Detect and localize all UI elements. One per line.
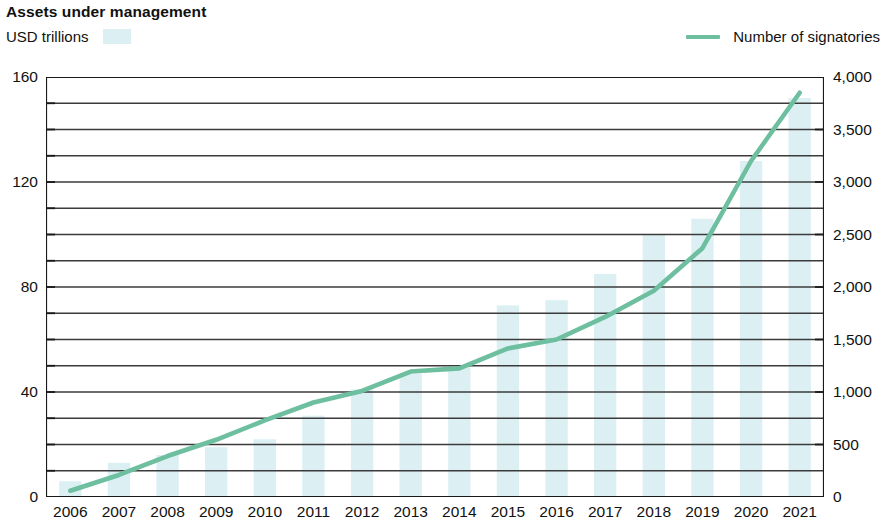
x-axis-tick-label-2021: 2021 xyxy=(775,504,824,520)
bars-group xyxy=(59,98,811,497)
y-axis-right-tick-label: 2,500 xyxy=(833,227,872,243)
legend-label-line: Number of signatories xyxy=(733,28,880,45)
x-axis-tick-label-2011: 2011 xyxy=(289,504,338,520)
bar-2012 xyxy=(351,389,373,497)
bar-2009 xyxy=(205,447,227,497)
x-axis-tick-label-2015: 2015 xyxy=(484,504,533,520)
chart-title: Assets under management xyxy=(6,3,206,21)
bar-2010 xyxy=(254,439,276,497)
x-axis-tick-label-2007: 2007 xyxy=(95,504,144,520)
y-axis-left-tick-label: 120 xyxy=(0,174,38,190)
y-axis-left-tick-label: 160 xyxy=(0,69,38,85)
chart-figure: Assets under management USD trillions Nu… xyxy=(0,0,884,529)
bar-2007 xyxy=(108,463,130,497)
y-axis-right-tick-label: 0 xyxy=(833,489,842,505)
x-axis-tick-label-2014: 2014 xyxy=(435,504,484,520)
bar-2015 xyxy=(497,305,519,497)
legend-item-line: Number of signatories xyxy=(686,28,880,45)
y-axis-left-tick-label: 0 xyxy=(0,489,38,505)
y-axis-right-tick-label: 1,500 xyxy=(833,332,872,348)
bar-2011 xyxy=(302,416,324,497)
x-axis-tick-label-2010: 2010 xyxy=(241,504,290,520)
y-axis-left-tick-label: 80 xyxy=(0,279,38,295)
x-axis-tick-label-2017: 2017 xyxy=(581,504,630,520)
chart-legend: USD trillions Number of signatories xyxy=(0,28,884,54)
x-axis-tick-label-2019: 2019 xyxy=(678,504,727,520)
y-axis-right-tick-label: 2,000 xyxy=(833,279,872,295)
legend-swatch-bar-icon xyxy=(103,29,131,44)
x-axis-tick-label-2012: 2012 xyxy=(338,504,387,520)
x-axis-tick-label-2013: 2013 xyxy=(386,504,435,520)
legend-swatch-line-icon xyxy=(686,35,720,39)
x-axis-tick-label-2008: 2008 xyxy=(143,504,192,520)
line-series-group xyxy=(70,93,799,491)
y-axis-right-tick-label: 3,500 xyxy=(833,122,872,138)
y-axis-left-tick-label: 40 xyxy=(0,384,38,400)
y-axis-right-tick-label: 4,000 xyxy=(833,69,872,85)
y-axis-right-tick-label: 1,000 xyxy=(833,384,872,400)
x-axis-tick-label-2009: 2009 xyxy=(192,504,241,520)
bar-2020 xyxy=(740,161,762,497)
plot-area xyxy=(46,77,824,497)
x-axis-tick-label-2006: 2006 xyxy=(46,504,95,520)
x-axis-tick-label-2018: 2018 xyxy=(630,504,679,520)
bar-2016 xyxy=(545,300,567,497)
plot-svg xyxy=(46,77,824,497)
x-axis-tick-label-2020: 2020 xyxy=(727,504,776,520)
y-axis-right-tick-label: 3,000 xyxy=(833,174,872,190)
bar-2014 xyxy=(448,366,470,497)
bar-2021 xyxy=(789,98,811,497)
x-axis-tick-label-2016: 2016 xyxy=(532,504,581,520)
y-axis-right-tick-label: 500 xyxy=(833,437,859,453)
legend-label-bars: USD trillions xyxy=(6,28,89,45)
bar-2017 xyxy=(594,274,616,497)
line-series-number-of-signatories xyxy=(70,93,799,491)
legend-item-bars: USD trillions xyxy=(6,28,131,45)
